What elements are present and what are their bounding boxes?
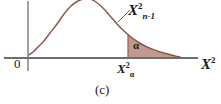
critical-value-label: X2α (117, 62, 134, 79)
distribution-label: X2n-1 (128, 2, 155, 21)
x-axis-label: X2 (201, 56, 216, 72)
origin-label: 0 (14, 57, 21, 70)
chi-square-distribution-figure (0, 0, 221, 104)
figure-caption: (c) (95, 83, 109, 96)
alpha-area-label: α (133, 40, 139, 51)
